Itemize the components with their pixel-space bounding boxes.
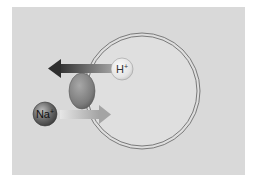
na-symbol: Na	[36, 108, 50, 120]
h-charge: +	[124, 63, 128, 70]
cell-membrane-inner	[87, 36, 197, 146]
antiporter-diagram	[0, 0, 254, 184]
h-ion-label: H+	[111, 63, 133, 75]
transporter-protein	[69, 73, 95, 109]
na-ion-label: Na+	[33, 108, 57, 120]
h-symbol: H	[116, 63, 124, 75]
cell	[84, 33, 200, 149]
na-charge: +	[50, 108, 54, 115]
